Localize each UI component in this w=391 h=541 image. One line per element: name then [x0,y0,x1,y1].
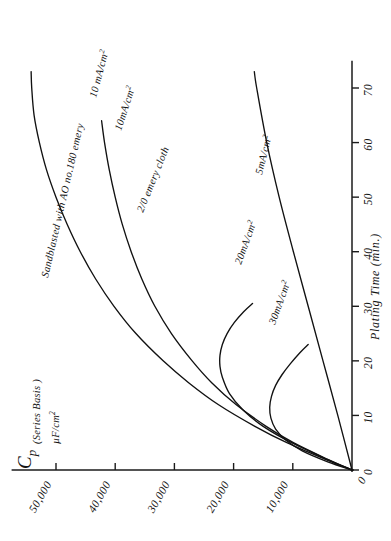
plating-time-tick-label: 0 [362,469,374,475]
series-basis-label: (Series Basis ) [31,379,43,444]
series-curve-4 [254,72,352,470]
curve-label-10ma-emery-cloth: 10mA/cm2 [111,84,138,132]
annotation-sandblasted: Sandblasted with AO no.180 emery [39,122,85,278]
curve-label-5ma: 5mA/cm2 [251,133,273,175]
plating-time-tick-label: 60 [362,138,374,150]
cp-tick-labels: 10,00020,00030,00040,00050,000 [26,479,291,516]
curve-label-30ma: 30mA/cm2 [264,278,292,326]
axis-titles: Cp (Series Basis ) µF/cm2 Plating Time (… [14,233,382,469]
axes-group [12,61,359,472]
cp-tick-label: 40,000 [86,479,114,515]
cp-tick-label: 30,000 [144,479,173,516]
plating-time-ticks [352,88,359,470]
cp-axis-title: Cp [14,449,39,469]
cp-tick-label: 20,000 [204,479,232,515]
cp-tick-label: 50,000 [26,479,54,515]
annotation-emery-cloth: 2/0 emery cloth [135,145,171,214]
plating-time-tick-label: 50 [362,193,374,205]
plating-time-tick-label: 10 [362,411,374,423]
cp-ticks [56,463,293,470]
chart-svg: 0102030405060700 10,00020,00030,00040,00… [0,0,391,541]
plating-time-tick-label: 20 [362,357,374,369]
plating-time-tick-label: 70 [362,84,374,96]
series-curve-1 [102,121,352,470]
curve-label-10ma-sandblasted: 10 mA/cm2 [85,48,110,98]
cp-tick-label: 10,000 [263,479,291,515]
curve-annotations: 10 mA/cm2 10mA/cm2 20mA/cm2 30mA/cm2 5mA… [39,48,292,327]
plating-time-axis-title: Plating Time (min.) [368,233,382,341]
figure-canvas: 0102030405060700 10,00020,00030,00040,00… [0,0,391,541]
series-curve-2 [220,304,352,470]
microfarad-unit-label: µF/cm2 [48,411,61,444]
curve-label-20ma: 20mA/cm2 [231,218,259,266]
